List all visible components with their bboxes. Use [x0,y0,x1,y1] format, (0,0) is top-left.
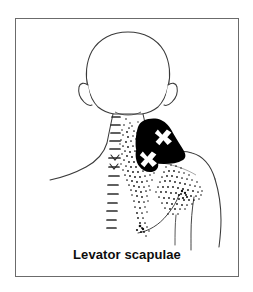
torso-side-line [175,215,176,245]
figure-caption: Levator scapulae [16,247,238,263]
scapular-spine-hint [162,163,196,175]
right-arm-inner-contour [191,197,194,250]
neck-left-contour [50,114,113,180]
anatomy-illustration [16,19,240,278]
figure-frame: Levator scapulae [15,18,239,277]
body-outline-group [50,32,221,250]
figure-root: Levator scapulae [0,0,253,292]
head-outline [86,32,169,114]
right-arm-outer-contour [215,179,221,247]
